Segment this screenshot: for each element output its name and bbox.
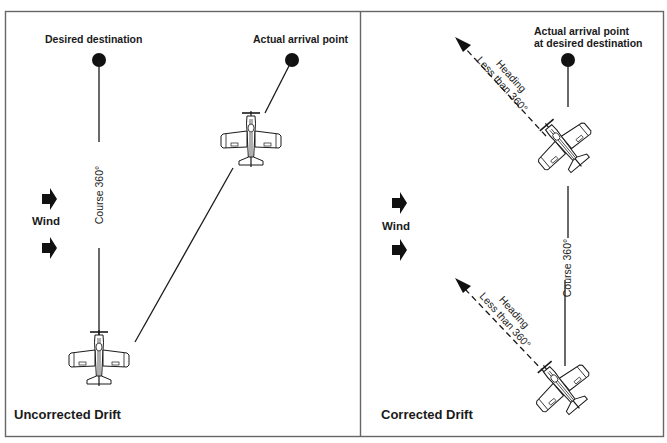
arrival-at-destination-label: Actual arrival point at desired destinat…	[534, 25, 643, 49]
course-label: Course 360°	[93, 157, 105, 233]
right-panel-caption: Corrected Drift	[381, 407, 473, 422]
course-label: Course 360°	[561, 230, 573, 306]
arrival-label-line1: Actual arrival point	[534, 25, 643, 37]
wind-label: Wind	[382, 220, 410, 232]
actual-arrival-label: Actual arrival point	[253, 33, 348, 45]
arrival-label-line2: at desired destination	[534, 37, 643, 49]
desired-destination-label: Desired destination	[45, 33, 142, 45]
wind-label: Wind	[32, 215, 60, 227]
left-panel-caption: Uncorrected Drift	[14, 407, 121, 422]
